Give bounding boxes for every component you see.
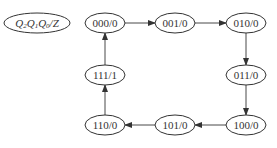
- state-011: 011/0: [226, 65, 266, 85]
- state-legend: Q2Q1Q0/Z: [4, 13, 70, 33]
- svg-text:Q2Q1Q0/Z: Q2Q1Q0/Z: [15, 17, 59, 30]
- state-010: 010/0: [226, 13, 266, 33]
- svg-text:110/0: 110/0: [93, 119, 118, 131]
- state-100: 100/0: [226, 115, 266, 135]
- svg-text:111/1: 111/1: [93, 69, 117, 81]
- svg-text:011/0: 011/0: [234, 69, 259, 81]
- svg-text:000/0: 000/0: [92, 17, 118, 29]
- state-diagram: Q2Q1Q0/Z 000/0 001/0 010/0 011/0 100/0 1…: [0, 0, 277, 148]
- state-110: 110/0: [85, 115, 125, 135]
- state-000: 000/0: [85, 13, 125, 33]
- svg-text:101/0: 101/0: [162, 119, 188, 131]
- state-101: 101/0: [155, 115, 195, 135]
- svg-text:100/0: 100/0: [233, 119, 259, 131]
- state-111: 111/1: [85, 65, 125, 85]
- svg-text:010/0: 010/0: [233, 17, 259, 29]
- state-001: 001/0: [155, 13, 195, 33]
- transition-arrows: [105, 23, 246, 125]
- svg-text:001/0: 001/0: [162, 17, 188, 29]
